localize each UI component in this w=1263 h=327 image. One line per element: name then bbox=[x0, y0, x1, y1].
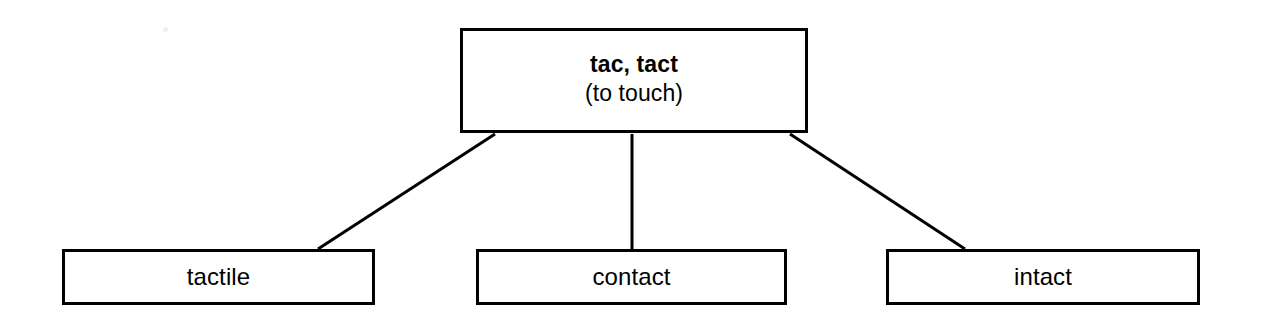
root-forms-label: tac, tact bbox=[590, 50, 678, 78]
connector-line-root-to-tactile bbox=[318, 134, 495, 249]
diagram-canvas: tac, tact (to touch) tactile contact int… bbox=[0, 0, 1263, 327]
root-node-box: tac, tact (to touch) bbox=[460, 28, 808, 133]
derived-word-box-tactile: tactile bbox=[62, 249, 375, 305]
derived-word-label: tactile bbox=[187, 264, 250, 290]
connector-line-root-to-intact bbox=[790, 134, 965, 249]
derived-word-label: intact bbox=[1014, 264, 1072, 290]
derived-word-label: contact bbox=[592, 264, 670, 290]
scan-artifact-speck bbox=[163, 27, 168, 32]
derived-word-box-contact: contact bbox=[476, 249, 787, 305]
derived-word-box-intact: intact bbox=[886, 249, 1200, 305]
root-meaning-label: (to touch) bbox=[585, 79, 683, 107]
